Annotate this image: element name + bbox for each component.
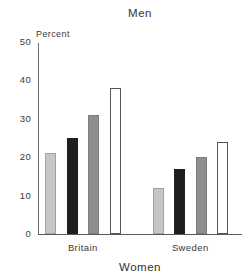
bar-britain-black [67, 138, 78, 234]
chart-title-men: Men [38, 7, 242, 19]
bar-sweden-black [174, 169, 185, 234]
y-tick-label: 0 [1, 228, 31, 240]
x-category-label-britain: Britain [53, 242, 113, 253]
y-tick-label: 50 [1, 36, 31, 48]
bar-britain-light-gray [45, 153, 56, 234]
chart-title-women: Women [38, 261, 242, 273]
bar-sweden-light-gray [153, 188, 164, 234]
bar-sweden-medium-gray [196, 157, 207, 234]
y-tick-label: 20 [1, 151, 31, 163]
x-category-label-sweden: Sweden [160, 242, 220, 253]
y-tick-label: 30 [1, 113, 31, 125]
bar-sweden-white [217, 142, 228, 234]
y-tick-label: 10 [1, 190, 31, 202]
bar-britain-medium-gray [88, 115, 99, 234]
y-tick-label: 40 [1, 74, 31, 86]
bar-britain-white [110, 88, 121, 234]
bar-chart: Men Percent 01020304050BritainSweden Wom… [0, 0, 246, 278]
y-axis-label: Percent [36, 29, 70, 39]
plot-area: Percent 01020304050BritainSweden [38, 43, 242, 235]
